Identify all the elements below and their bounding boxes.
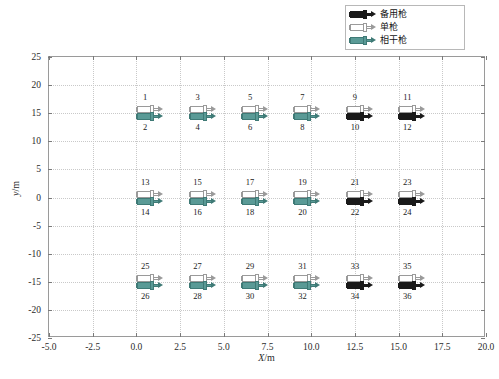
- x-axis-tick-label: 12.5: [347, 342, 364, 352]
- y-axis-tick: [48, 338, 52, 339]
- grid-line-vertical: [268, 57, 269, 336]
- gun-marker-label-lower: 34: [351, 292, 360, 301]
- gun-marker-lower[interactable]: [346, 280, 372, 291]
- gun-marker-label-upper: 33: [351, 262, 360, 271]
- y-axis-tick: [481, 57, 485, 58]
- legend-item-2[interactable]: 单枪: [349, 21, 461, 34]
- gun-marker-label-upper: 1: [143, 93, 147, 102]
- y-axis-label-unit: /m: [10, 181, 21, 192]
- grid-line-vertical: [180, 57, 181, 336]
- gun-marker-lower[interactable]: [136, 196, 162, 207]
- gun-icon: [346, 196, 372, 207]
- legend-item-1[interactable]: 备用枪: [349, 8, 461, 21]
- chart-root: 备用枪单枪相干枪 -5.0-2.50.02.55.07.510.012.515.…: [0, 0, 499, 379]
- x-axis-tick: [442, 333, 443, 337]
- y-axis-tick: [48, 57, 52, 58]
- y-axis-tick-label: -10: [28, 249, 41, 259]
- y-axis-label-symbol: y: [10, 192, 21, 196]
- y-axis-tick-label: 15: [32, 108, 42, 118]
- gun-marker-label-upper: 27: [193, 262, 202, 271]
- x-axis-tick: [442, 56, 443, 60]
- x-axis-tick-label: 10.0: [303, 342, 320, 352]
- x-axis-tick-label: -2.5: [85, 342, 100, 352]
- gun-icon: [293, 196, 319, 207]
- gun-marker-label-lower: 2: [143, 123, 147, 132]
- x-axis-tick: [311, 333, 312, 337]
- gun-icon: [349, 35, 375, 46]
- gun-icon: [136, 280, 162, 291]
- gun-marker-label-upper: 21: [351, 178, 360, 187]
- gun-marker-label-lower: 30: [246, 292, 255, 301]
- gun-marker-lower[interactable]: [398, 196, 424, 207]
- y-axis-tick-label: -5: [33, 221, 41, 231]
- y-axis-tick: [48, 85, 52, 86]
- grid-line-horizontal: [49, 141, 484, 142]
- plot-area: -5.0-2.50.02.55.07.510.012.515.017.520.0…: [48, 56, 485, 337]
- y-axis-tick: [48, 169, 52, 170]
- gun-icon: [241, 111, 267, 122]
- y-axis-tick-label: 20: [32, 80, 42, 90]
- gun-marker-label-lower: 12: [403, 123, 412, 132]
- gun-marker-lower[interactable]: [293, 111, 319, 122]
- legend-key-gun-icon: [349, 9, 375, 20]
- gun-marker-label-upper: 31: [298, 262, 307, 271]
- y-axis-tick: [481, 198, 485, 199]
- gun-marker-label-upper: 9: [353, 93, 357, 102]
- gun-marker-lower[interactable]: [241, 111, 267, 122]
- gun-marker-lower[interactable]: [346, 111, 372, 122]
- gun-marker-lower[interactable]: [136, 280, 162, 291]
- gun-marker-label-upper: 17: [246, 178, 255, 187]
- y-axis-tick: [481, 338, 485, 339]
- gun-marker-lower[interactable]: [136, 111, 162, 122]
- gun-marker-lower[interactable]: [189, 280, 215, 291]
- gun-marker-lower[interactable]: [293, 280, 319, 291]
- y-axis-tick: [481, 254, 485, 255]
- gun-marker-lower[interactable]: [398, 111, 424, 122]
- gun-marker-label-lower: 28: [193, 292, 202, 301]
- y-axis-tick-label: -20: [28, 305, 41, 315]
- gun-marker-label-lower: 20: [298, 208, 307, 217]
- x-axis-tick: [311, 56, 312, 60]
- x-axis-tick: [355, 333, 356, 337]
- x-axis-tick: [136, 56, 137, 60]
- gun-marker-label-lower: 36: [403, 292, 412, 301]
- gun-icon: [241, 196, 267, 207]
- gun-marker-lower[interactable]: [189, 196, 215, 207]
- grid-line-vertical: [442, 57, 443, 336]
- legend-key-gun-icon: [349, 22, 375, 33]
- x-axis-tick: [399, 56, 400, 60]
- y-axis-tick: [48, 198, 52, 199]
- gun-marker-label-upper: 7: [300, 93, 304, 102]
- legend-item-label: 单枪: [380, 22, 398, 33]
- x-axis-label: X/m: [48, 352, 485, 363]
- legend-key-gun-icon: [349, 35, 375, 46]
- x-axis-tick: [224, 56, 225, 60]
- y-axis-tick: [48, 113, 52, 114]
- y-axis-tick-label: -15: [28, 277, 41, 287]
- y-axis-tick-label: 10: [32, 136, 42, 146]
- y-axis-tick-label: 5: [36, 164, 41, 174]
- y-axis-tick: [481, 169, 485, 170]
- gun-marker-lower[interactable]: [293, 196, 319, 207]
- gun-marker-lower[interactable]: [346, 196, 372, 207]
- y-axis-tick: [48, 282, 52, 283]
- gun-marker-label-lower: 14: [141, 208, 150, 217]
- gun-marker-label-lower: 8: [300, 123, 304, 132]
- gun-icon: [189, 111, 215, 122]
- gun-marker-lower[interactable]: [241, 196, 267, 207]
- gun-marker-label-upper: 3: [195, 93, 199, 102]
- gun-marker-label-lower: 4: [195, 123, 199, 132]
- x-axis-label-unit: /m: [264, 352, 275, 363]
- gun-marker-lower[interactable]: [241, 280, 267, 291]
- gun-marker-lower[interactable]: [398, 280, 424, 291]
- legend-item-3[interactable]: 相干枪: [349, 34, 461, 47]
- gun-icon: [346, 280, 372, 291]
- y-axis-tick-label: 25: [32, 52, 42, 62]
- grid-line-horizontal: [49, 85, 484, 86]
- y-axis-tick: [481, 226, 485, 227]
- gun-marker-label-lower: 24: [403, 208, 412, 217]
- y-axis-tick: [48, 254, 52, 255]
- grid-line-vertical: [224, 57, 225, 336]
- gun-marker-lower[interactable]: [189, 111, 215, 122]
- gun-icon: [293, 280, 319, 291]
